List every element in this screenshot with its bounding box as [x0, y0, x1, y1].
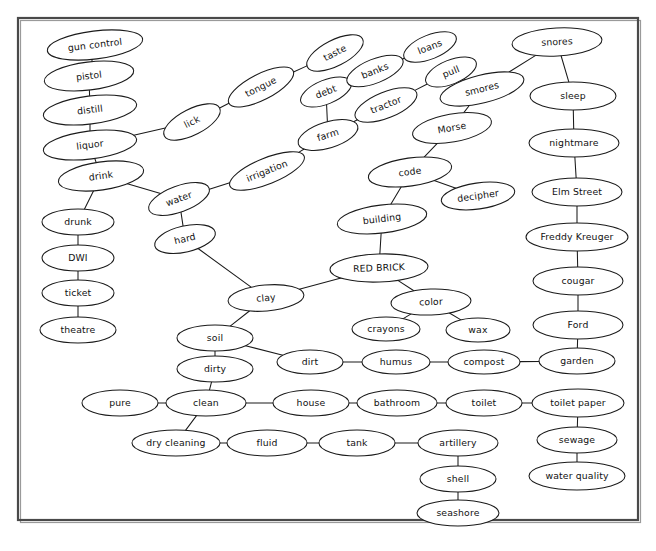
concept-node-ford[interactable]: Ford [533, 311, 623, 339]
edge-smores-to-morse [464, 106, 469, 113]
concept-node-tractor[interactable]: tractor [351, 81, 422, 130]
node-label-dwi: DWI [68, 252, 88, 263]
node-label-dry_cleaning: dry cleaning [146, 437, 205, 448]
concept-node-compost[interactable]: compost [448, 350, 520, 374]
node-label-sewage: sewage [559, 434, 596, 445]
edge-snores-to-sleep [561, 56, 569, 82]
concept-node-tongue[interactable]: tongue [223, 59, 299, 115]
concept-node-humus[interactable]: humus [362, 350, 430, 374]
edge-clean-to-dry_cleaning [186, 416, 197, 431]
node-label-clean: clean [193, 397, 219, 408]
node-label-elm_street: Elm Street [552, 186, 602, 197]
edge-tongue-to-taste [294, 66, 307, 72]
concept-node-color[interactable]: color [391, 288, 472, 317]
concept-node-tank[interactable]: tank [319, 430, 395, 456]
concept-node-lick[interactable]: lick [158, 96, 225, 147]
edge-code-to-decipher [434, 181, 456, 189]
concept-node-house[interactable]: house [273, 390, 349, 416]
node-label-humus: humus [380, 356, 412, 367]
concept-node-artillery[interactable]: artillery [418, 430, 498, 456]
node-label-color: color [419, 296, 443, 308]
concept-node-morse[interactable]: Morse [410, 107, 494, 148]
concept-node-cougar[interactable]: cougar [533, 267, 623, 295]
edge-code-to-building [391, 187, 401, 204]
concept-node-decipher[interactable]: decipher [440, 178, 517, 214]
concept-node-water_quality[interactable]: water quality [529, 462, 625, 490]
concept-node-code[interactable]: code [366, 152, 453, 191]
node-label-garden: garden [560, 355, 594, 366]
concept-node-toilet_paper[interactable]: toilet paper [532, 389, 624, 417]
edge-hard-to-clay [198, 249, 251, 288]
node-label-shell: shell [447, 473, 469, 484]
node-label-compost: compost [464, 356, 505, 367]
concept-node-nightmare[interactable]: nightmare [529, 129, 619, 157]
concept-node-building[interactable]: building [336, 200, 429, 239]
node-label-ticket: ticket [65, 287, 92, 298]
concept-node-freddy[interactable]: Freddy Kreuger [526, 223, 628, 251]
edge-color-to-wax [449, 313, 461, 320]
concept-node-soil[interactable]: soil [177, 325, 253, 351]
concept-node-crayons[interactable]: crayons [352, 317, 420, 341]
concept-node-hard[interactable]: hard [152, 219, 218, 258]
edge-soil-to-dirt [246, 346, 283, 355]
concept-node-pistol[interactable]: pistol [43, 57, 136, 96]
concept-node-wax[interactable]: wax [446, 318, 510, 342]
concept-node-dirty[interactable]: dirty [177, 356, 253, 382]
edge-lick-to-tongue [220, 103, 229, 108]
node-label-dirty: dirty [204, 363, 227, 374]
node-label-artillery: artillery [439, 437, 477, 448]
concept-node-liquor[interactable]: liquor [42, 125, 139, 164]
node-label-crayons: crayons [367, 323, 405, 334]
concept-node-theatre[interactable]: theatre [40, 317, 116, 343]
concept-node-snores[interactable]: snores [511, 26, 602, 59]
node-label-sleep: sleep [560, 90, 586, 101]
concept-node-garden[interactable]: garden [539, 348, 615, 374]
concept-node-elm_street[interactable]: Elm Street [532, 178, 622, 206]
concept-node-sleep[interactable]: sleep [530, 82, 616, 110]
concept-node-debt[interactable]: debt [296, 71, 355, 113]
concept-node-farm[interactable]: farm [295, 114, 362, 157]
edge-water-to-irrigation [209, 183, 229, 190]
edge-red_brick-to-clay [299, 278, 341, 289]
node-label-water_quality: water quality [545, 470, 609, 481]
concept-node-fluid[interactable]: fluid [227, 430, 307, 456]
edge-nightmare-to-elm_street [575, 157, 576, 178]
concept-node-water[interactable]: water [144, 176, 213, 222]
concept-node-bathroom[interactable]: bathroom [357, 390, 437, 416]
concept-node-seashore[interactable]: seashore [417, 500, 499, 526]
edge-dirty-to-clean [209, 382, 211, 390]
node-layer: gun controlpistoldistillliquordrinkdrunk… [40, 25, 628, 526]
concept-node-gun_control[interactable]: gun control [46, 25, 145, 64]
concept-map-canvas: gun controlpistoldistillliquordrinkdrunk… [0, 0, 656, 551]
edge-color-to-crayons [403, 314, 411, 319]
concept-node-ticket[interactable]: ticket [42, 280, 114, 306]
concept-node-drunk[interactable]: drunk [42, 209, 114, 235]
concept-node-drink[interactable]: drink [56, 156, 145, 196]
node-label-freddy: Freddy Kreuger [540, 231, 613, 242]
edge-irrigation-to-farm [299, 149, 305, 152]
node-label-wax: wax [468, 324, 488, 335]
concept-map-svg: gun controlpistoldistillliquordrinkdrunk… [0, 0, 656, 551]
edge-morse-to-code [424, 143, 437, 157]
node-label-tank: tank [346, 437, 368, 448]
concept-node-dwi[interactable]: DWI [42, 245, 114, 271]
node-label-toilet: toilet [472, 397, 497, 408]
edge-drink-to-drunk [84, 191, 93, 209]
node-label-toilet_paper: toilet paper [550, 397, 606, 408]
concept-node-shell[interactable]: shell [420, 466, 496, 492]
concept-node-red_brick[interactable]: RED BRICK [330, 252, 429, 283]
concept-node-distill[interactable]: distill [42, 90, 139, 129]
node-label-bathroom: bathroom [374, 397, 420, 408]
edge-red_brick-to-color [398, 280, 414, 290]
concept-node-irrigation[interactable]: irrigation [225, 144, 309, 198]
concept-node-clay[interactable]: clay [227, 282, 305, 315]
concept-node-sewage[interactable]: sewage [537, 427, 617, 453]
concept-node-dry_cleaning[interactable]: dry cleaning [132, 430, 220, 456]
node-label-house: house [297, 397, 326, 408]
concept-node-dirt[interactable]: dirt [277, 350, 343, 374]
edge-smores-to-snores [509, 55, 536, 72]
edge-liquor-to-drink [95, 158, 96, 162]
concept-node-clean[interactable]: clean [166, 390, 246, 416]
concept-node-toilet[interactable]: toilet [446, 390, 522, 416]
concept-node-pure[interactable]: pure [82, 390, 158, 416]
